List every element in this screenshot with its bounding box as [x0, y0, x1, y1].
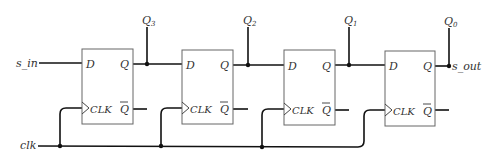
qbar-pin-label: Q	[322, 104, 331, 117]
d-pin-label: D	[85, 58, 95, 71]
s-in-label: s_in	[16, 57, 38, 70]
q2-tap-label: Q2	[243, 14, 257, 28]
shift-register-diagram: s_in clk s_out	[0, 0, 498, 161]
clk-pin-label: CLK	[292, 105, 314, 116]
flip-flop-2: D Q CLK Q Q2	[182, 14, 257, 124]
d-pin-label: D	[185, 59, 195, 72]
q-pin-label: Q	[220, 59, 229, 72]
clk-pin-label: CLK	[190, 104, 212, 115]
q-pin-label: Q	[423, 60, 432, 73]
d-pin-label: D	[287, 60, 297, 73]
clk-label: clk	[20, 139, 37, 152]
q0-tap-label: Q0	[444, 15, 458, 29]
d-pin-label: D	[388, 60, 398, 73]
s-out-label: s_out	[452, 60, 482, 73]
qbar-pin-label: Q	[120, 103, 129, 116]
qbar-pin-label: Q	[220, 103, 229, 116]
clk-pin-label: CLK	[393, 106, 415, 117]
flip-flop-1: D Q CLK Q Q3	[82, 14, 156, 124]
q-pin-label: Q	[322, 60, 331, 73]
q3-tap-label: Q3	[142, 14, 156, 28]
qbar-pin-label: Q	[423, 105, 432, 118]
clk-pin-label: CLK	[90, 104, 112, 115]
q-pin-label: Q	[120, 58, 129, 71]
flip-flop-3: D Q CLK Q Q1	[284, 14, 358, 125]
q1-tap-label: Q1	[344, 14, 358, 28]
